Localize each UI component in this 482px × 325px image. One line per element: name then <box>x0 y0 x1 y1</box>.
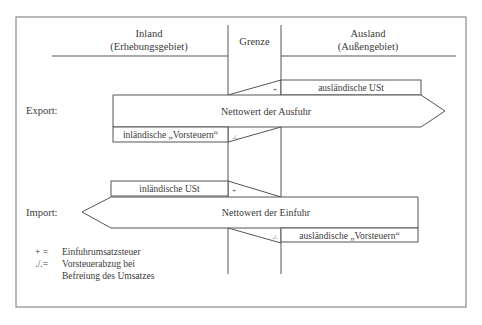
abroad-subtitle: (Außengebiet) <box>338 41 399 53</box>
export-plus-symbol: + <box>273 86 277 94</box>
inland-title: Inland <box>136 28 164 39</box>
import-label: Import: <box>26 207 58 218</box>
export-deduction-symbol: ./. <box>232 133 238 141</box>
inland-subtitle: (Erhebungsgebiet) <box>110 41 188 53</box>
export-domestic-input-tax-text: inländische „Vorsteuern“ <box>123 130 218 140</box>
import-deduction-symbol: ./. <box>272 233 278 241</box>
import-arrow-text: Nettowert der Einfuhr <box>222 207 311 218</box>
legend-text-plus: Einfuhrumsatzsteuer <box>62 247 141 257</box>
abroad-title: Ausland <box>351 28 387 39</box>
legend-text-deduction: Vorsteuerabzug bei <box>62 259 135 269</box>
import-plus-symbol: + <box>232 187 236 195</box>
export-arrow-text: Nettowert der Ausfuhr <box>221 106 312 117</box>
border-title: Grenze <box>239 36 270 47</box>
export-label: Export: <box>26 105 58 116</box>
import-domestic-vat-text: inländische USt <box>139 184 200 194</box>
import-foreign-input-tax-text: ausländische „Vorsteuern“ <box>299 231 399 241</box>
tax-flow-diagram: Inland (Erhebungsgebiet) Grenze Ausland … <box>0 0 482 325</box>
legend-symbol-deduction: ./.= <box>35 259 48 269</box>
legend-text-deduction-cont: Befreiung des Umsatzes <box>62 271 155 281</box>
export-foreign-vat-text: ausländische USt <box>318 83 384 93</box>
legend: + = Einfuhrumsatzsteuer ./.= Vorsteuerab… <box>35 247 155 281</box>
legend-symbol-plus: + = <box>35 247 48 257</box>
